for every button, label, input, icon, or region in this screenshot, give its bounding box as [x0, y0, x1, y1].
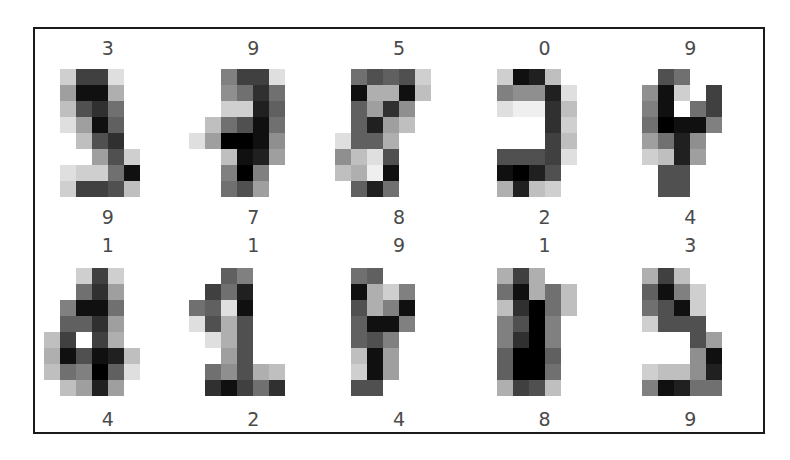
pixel [706, 268, 722, 284]
pixel [351, 300, 367, 316]
pixel [690, 268, 706, 284]
pixel [513, 69, 529, 85]
pixel [593, 69, 609, 85]
pixel [221, 85, 237, 101]
pixel [301, 117, 317, 133]
pixel [44, 117, 60, 133]
pixel [221, 380, 237, 396]
pixel [415, 300, 431, 316]
pixel [738, 348, 754, 364]
pixel [92, 348, 108, 364]
pixel [335, 149, 351, 165]
pixel [415, 149, 431, 165]
pixel [577, 268, 593, 284]
pixel [124, 165, 140, 181]
pixel [545, 117, 561, 133]
pixel [221, 101, 237, 117]
pixel [626, 133, 642, 149]
pixel [415, 85, 431, 101]
pixel [561, 165, 577, 181]
pixel [674, 85, 690, 101]
pixel [738, 165, 754, 181]
pixel [269, 364, 285, 380]
digit-bottom-label: 2 [247, 406, 259, 432]
pixel [658, 165, 674, 181]
pixel [124, 316, 140, 332]
pixel [497, 133, 513, 149]
pixel [513, 348, 529, 364]
pixel [577, 300, 593, 316]
digit-image [44, 69, 172, 197]
pixel [447, 364, 463, 380]
digit-image [44, 268, 172, 396]
pixel [108, 364, 124, 380]
pixel [124, 181, 140, 197]
pixel [415, 165, 431, 181]
pixel [529, 316, 545, 332]
pixel [140, 268, 156, 284]
pixel [593, 149, 609, 165]
pixel [124, 380, 140, 396]
pixel [658, 332, 674, 348]
pixel [399, 284, 415, 300]
pixel [335, 364, 351, 380]
pixel [367, 316, 383, 332]
pixel [545, 268, 561, 284]
pixel [738, 316, 754, 332]
pixel [706, 85, 722, 101]
pixel [513, 101, 529, 117]
pixel [593, 332, 609, 348]
pixel [269, 316, 285, 332]
pixel [285, 165, 301, 181]
pixel [593, 380, 609, 396]
pixel [301, 69, 317, 85]
pixel [593, 85, 609, 101]
pixel [642, 332, 658, 348]
pixel [447, 316, 463, 332]
pixel [658, 181, 674, 197]
pixel [431, 149, 447, 165]
pixel [481, 165, 497, 181]
pixel [722, 284, 738, 300]
pixel [189, 149, 205, 165]
pixel [497, 284, 513, 300]
pixel [285, 69, 301, 85]
pixel [269, 268, 285, 284]
pixel [674, 380, 690, 396]
pixel [76, 348, 92, 364]
pixel [189, 380, 205, 396]
pixel [335, 117, 351, 133]
pixel [156, 364, 172, 380]
pixel [481, 332, 497, 348]
pixel [221, 284, 237, 300]
pixel [44, 149, 60, 165]
pixel [738, 85, 754, 101]
pixel [674, 364, 690, 380]
pixel [513, 300, 529, 316]
pixel [367, 332, 383, 348]
pixel [124, 364, 140, 380]
pixel [269, 300, 285, 316]
pixel [285, 85, 301, 101]
pixel [140, 364, 156, 380]
pixel [205, 284, 221, 300]
digit-title-label: 9 [393, 233, 405, 259]
pixel [642, 348, 658, 364]
pixel [221, 300, 237, 316]
digit-cell: 02 [472, 29, 618, 231]
pixel [156, 69, 172, 85]
pixel [253, 316, 269, 332]
pixel [335, 69, 351, 85]
pixel [301, 364, 317, 380]
pixel [351, 117, 367, 133]
pixel [722, 380, 738, 396]
pixel [690, 85, 706, 101]
pixel [76, 181, 92, 197]
pixel [335, 181, 351, 197]
pixel [76, 149, 92, 165]
pixel [722, 316, 738, 332]
pixel [690, 181, 706, 197]
digit-bottom-label: 2 [539, 205, 551, 231]
pixel [44, 348, 60, 364]
pixel [76, 380, 92, 396]
